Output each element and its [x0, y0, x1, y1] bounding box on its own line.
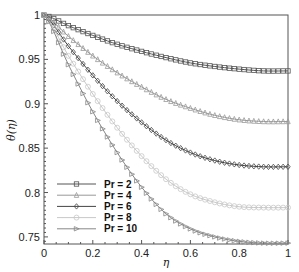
x-tick-label: 1 [285, 247, 291, 259]
y-tick-label: 0.95 [19, 53, 40, 65]
x-tick-label: 0.4 [134, 247, 149, 259]
x-tick-label: 0.8 [232, 247, 247, 259]
legend-item: Pr = 8 [57, 212, 132, 223]
x-axis-label: η [163, 256, 170, 269]
y-tick-label: 1 [34, 9, 40, 21]
series-line [44, 15, 288, 71]
legend-item: Pr = 4 [57, 190, 132, 201]
y-tick-label: 0.8 [25, 187, 40, 199]
y-tick-label: 0.75 [19, 231, 40, 243]
legend: Pr = 2Pr = 4Pr = 6Pr = 8Pr = 10 [57, 179, 138, 235]
chart: 00.20.40.60.81 0.750.80.850.90.951 Pr = … [0, 0, 299, 272]
plot-frame [44, 15, 288, 244]
series-pr10 [42, 13, 291, 246]
x-tick-label: 0 [41, 247, 47, 259]
legend-label: Pr = 8 [104, 212, 132, 223]
x-tick-label: 0.2 [85, 247, 100, 259]
series-layer [42, 12, 291, 245]
y-tick-label: 0.9 [25, 98, 40, 110]
x-tick-label: 0.6 [183, 247, 198, 259]
legend-label: Pr = 4 [104, 190, 132, 201]
series-pr6 [42, 12, 290, 169]
legend-label: Pr = 10 [104, 223, 138, 234]
legend-item: Pr = 6 [57, 201, 132, 212]
legend-label: Pr = 2 [104, 179, 132, 190]
legend-label: Pr = 6 [104, 201, 132, 212]
series-pr8 [42, 13, 291, 211]
y-axis-label: θ(η) [5, 119, 18, 141]
series-line [44, 15, 288, 208]
legend-item: Pr = 10 [57, 223, 138, 234]
legend-item: Pr = 2 [57, 179, 132, 190]
y-tick-label: 0.85 [19, 142, 40, 154]
